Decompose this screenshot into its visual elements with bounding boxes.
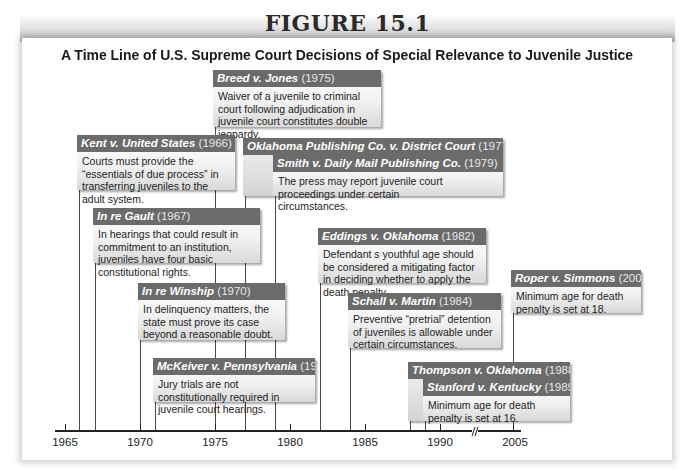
case-name: Schall v. Martin: [352, 295, 436, 307]
decision-smith-v-daily-mail: Smith v. Daily Mail Publishing Co. (1979…: [273, 155, 503, 196]
case-year: (1971): [300, 360, 315, 372]
decision-header: Breed v. Jones (1975): [213, 70, 381, 87]
decision-breed-v-jones: Breed v. Jones (1975) Waiver of a juveni…: [213, 70, 381, 127]
case-year: (1989): [545, 381, 570, 393]
tick-1965: [65, 424, 66, 430]
case-year: (1982): [442, 230, 475, 242]
decision-schall-v-martin: Schall v. Martin (1984) Preventive “pret…: [348, 293, 501, 348]
case-name: Stanford v. Kentucky: [427, 381, 541, 393]
case-year: (1967): [157, 210, 190, 222]
decision-eddings-v-oklahoma: Eddings v. Oklahoma (1982) Defendant s y…: [318, 228, 486, 283]
case-year: (1975): [301, 72, 334, 84]
tick-label-1980: 1980: [270, 436, 310, 448]
case-name: Kent v. United States: [81, 137, 195, 149]
decision-header: Kent v. United States (1966): [77, 135, 235, 152]
case-name: Roper v. Simmons: [515, 272, 615, 284]
decision-header: Eddings v. Oklahoma (1982): [318, 228, 486, 245]
case-name: Oklahoma Publishing Co. v. District Cour…: [247, 140, 475, 152]
decision-in-re-gault: In re Gault (1967) In hearings that coul…: [93, 208, 260, 263]
case-name: In re Gault: [97, 210, 154, 222]
decision-header: In re Winship (1970): [138, 283, 285, 300]
tick-label-1965: 1965: [45, 436, 85, 448]
decision-mckeiver-v-pennsylvania: McKeiver v. Pennsylvania (1971) Jury tri…: [153, 358, 315, 402]
case-year: (1966): [199, 137, 232, 149]
case-year: (2005): [619, 272, 641, 284]
tick-label-1975: 1975: [195, 436, 235, 448]
case-name: McKeiver v. Pennsylvania: [157, 360, 297, 372]
decision-stanford-v-kentucky: Stanford v. Kentucky (1989) Minimum age …: [423, 379, 570, 421]
case-year: (1970): [217, 285, 250, 297]
tick-1970: [140, 424, 141, 430]
tick-1980: [290, 424, 291, 430]
case-name: Thompson v. Oklahoma: [412, 364, 542, 376]
decision-text: In delinquency matters, the state must p…: [138, 300, 285, 345]
decision-text: Jury trials are not constitutionally req…: [153, 375, 315, 420]
case-name: Smith v. Daily Mail Publishing Co.: [277, 157, 461, 169]
case-year: (1977): [478, 140, 503, 152]
tick-1985: [365, 424, 366, 430]
decision-header: Stanford v. Kentucky (1989): [423, 379, 570, 396]
decision-text: Minimum age for death penalty is set at …: [423, 396, 563, 428]
decision-header: McKeiver v. Pennsylvania (1971): [153, 358, 315, 375]
timeline-axis: [55, 430, 521, 432]
case-name: In re Winship: [142, 285, 214, 297]
decision-text: Minimum age for death penalty is set at …: [511, 287, 631, 319]
decision-header: Schall v. Martin (1984): [348, 293, 501, 310]
case-year: (1979): [464, 157, 497, 169]
case-name: Eddings v. Oklahoma: [322, 230, 438, 242]
tick-label-1985: 1985: [345, 436, 385, 448]
decision-in-re-winship: In re Winship (1970) In delinquency matt…: [138, 283, 285, 340]
decision-text: The press may report juvenile court proc…: [273, 172, 453, 217]
decision-header: Smith v. Daily Mail Publishing Co. (1979…: [273, 155, 503, 172]
decision-roper-v-simmons: Roper v. Simmons (2005) Minimum age for …: [511, 270, 641, 313]
tick-label-1990: 1990: [420, 436, 460, 448]
decision-text: Waiver of a juvenile to criminal court f…: [213, 87, 381, 144]
decision-header: Roper v. Simmons (2005): [511, 270, 641, 287]
tick-label-2005: 2005: [495, 436, 535, 448]
tick-label-1970: 1970: [120, 436, 160, 448]
decision-header: In re Gault (1967): [93, 208, 260, 225]
diagram-title: A Time Line of U.S. Supreme Court Decisi…: [45, 46, 650, 63]
tick-1975: [215, 424, 216, 430]
decision-text: In hearings that could result in commitm…: [93, 225, 260, 282]
decision-text: Preventive “pretrial” detention of juven…: [348, 310, 501, 355]
case-year: (1988): [545, 364, 570, 376]
decision-header-thompson-v-oklahoma: Thompson v. Oklahoma (1988): [408, 362, 570, 379]
case-year: (1984): [439, 295, 472, 307]
decision-text: Courts must provide the “essentials of d…: [77, 152, 235, 209]
decision-kent-v-united-states: Kent v. United States (1966) Courts must…: [77, 135, 235, 190]
case-name: Breed v. Jones: [217, 72, 298, 84]
decision-header-oklahoma-publishing: Oklahoma Publishing Co. v. District Cour…: [243, 138, 503, 155]
figure-label: FIGURE 15.1: [0, 10, 695, 36]
